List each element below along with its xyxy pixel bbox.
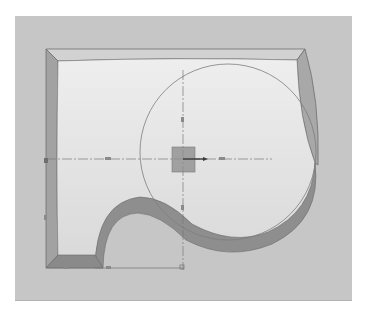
constraint-marker-icon[interactable] xyxy=(64,266,69,269)
model-canvas[interactable] xyxy=(0,0,368,318)
constraint-marker-icon[interactable] xyxy=(181,117,184,122)
constraint-marker-icon[interactable] xyxy=(219,157,225,160)
constraint-marker-icon[interactable] xyxy=(106,266,111,269)
constraint-marker-icon[interactable] xyxy=(44,215,47,220)
constraint-marker-icon[interactable] xyxy=(105,157,111,160)
constraint-marker-icon[interactable] xyxy=(181,205,184,210)
constraint-marker-icon[interactable] xyxy=(44,158,48,163)
